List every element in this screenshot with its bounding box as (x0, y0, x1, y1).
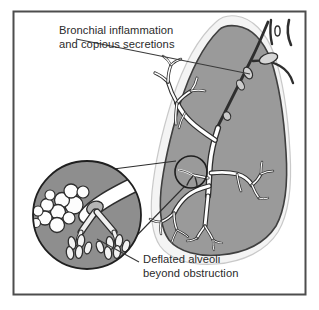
trachea-cartilage-ring (275, 26, 280, 36)
bronchial-obstruction-figure: Bronchial inflammation and copious secre… (0, 0, 319, 310)
deflated-alveoli-line-2: beyond obstruction (143, 267, 238, 279)
bronchial-inflammation-line-2: and copious secretions (59, 38, 175, 50)
illustration-root: Bronchial inflammation and copious secre… (0, 0, 319, 310)
deflated-alveoli-line-1: Deflated alveoli (143, 253, 220, 265)
bronchial-inflammation-line-1: Bronchial inflammation (59, 24, 173, 36)
